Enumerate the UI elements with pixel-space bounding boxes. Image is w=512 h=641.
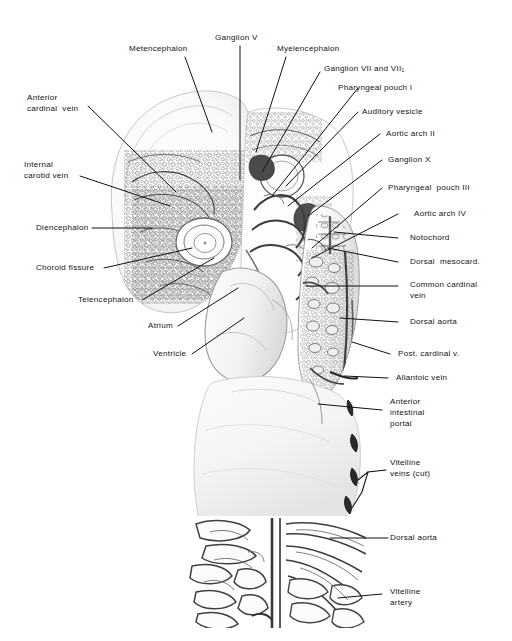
label-vitelline-artery-line1: Vitelline [390, 587, 420, 597]
label-common-cardinal-vein-line2: vein [410, 291, 426, 301]
label-aortic-arch-iv: Aortic arch IV [414, 209, 466, 219]
label-dorsal-aorta-lower: Dorsal aorta [390, 533, 437, 543]
yolk-sac-region [194, 377, 360, 522]
label-notochord: Notochord [410, 233, 450, 243]
label-anterior-intestinal-portal-line1: Anterior [390, 397, 420, 407]
heart-outline [205, 268, 287, 382]
label-vitelline-veins-cut-line2: veins (cut) [390, 469, 430, 479]
label-pharyngeal-pouch-i: Pharyngeal pouch I [338, 83, 412, 93]
yolk-sac-outline [194, 377, 360, 522]
label-dorsal-mesocard: Dorsal mesocard. [410, 257, 480, 267]
label-ganglion-x: Ganglion X [388, 155, 431, 165]
label-anterior-cardinal-vein-line2: cardinal vein [27, 104, 78, 114]
ganglion-vii-viii-mass [249, 155, 274, 180]
label-dorsal-aorta-upper: Dorsal aorta [410, 317, 457, 327]
label-pharyngeal-pouch-iii: Pharyngeal pouch III [388, 183, 470, 193]
label-vitelline-artery-line2: artery [390, 598, 412, 608]
label-internal-carotid-vein-line2: carotid vein [24, 171, 68, 181]
label-internal-carotid-vein-line1: Internal [24, 160, 53, 170]
label-myelencephalon: Myelencephalon [277, 44, 339, 54]
label-ganglion-v: Ganglion V [215, 33, 258, 43]
label-post-cardinal-v: Post. cardinal v. [398, 349, 459, 359]
leader-post-cardinal-v [352, 342, 390, 354]
label-aortic-arch-ii: Aortic arch II [386, 129, 435, 139]
label-ventricle: Ventricle [153, 349, 186, 359]
label-ganglion-vii-viii: Ganglion VII and VII₁ [324, 64, 404, 74]
label-anterior-intestinal-portal-line2: intestinal [390, 408, 424, 418]
label-allantoic-vein: Allantoic vein [396, 373, 447, 383]
label-vitelline-veins-cut-line1: Vitelline [390, 458, 420, 468]
vitelline-plexus-region [186, 516, 366, 630]
label-anterior-cardinal-vein-line1: Anterior [27, 93, 57, 103]
figure-page: Metencephalon Ganglion V Myelencephalon … [0, 0, 512, 641]
trunk-region [298, 206, 359, 398]
label-telencephalon: Telencephalon [78, 295, 133, 305]
label-metencephalon: Metencephalon [129, 44, 188, 54]
label-diencephalon: Diencephalon [36, 223, 89, 233]
label-choroid-fissure: Choroid fissure [36, 263, 94, 273]
label-auditory-vesicle: Auditory vesicle [362, 107, 423, 117]
label-common-cardinal-vein-line1: Common cardinal [410, 280, 477, 290]
label-anterior-intestinal-portal-line3: portal [390, 419, 412, 429]
label-atrium: Atrium [148, 321, 173, 331]
